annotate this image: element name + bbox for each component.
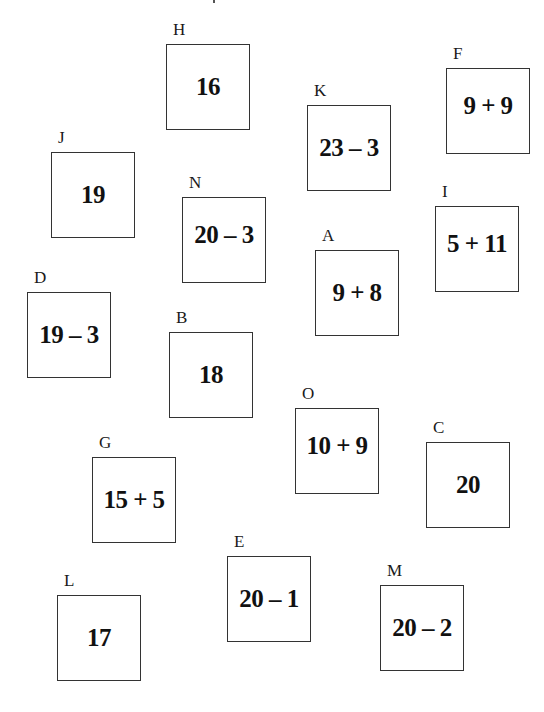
- card-box: 16: [166, 44, 250, 130]
- card-j[interactable]: J 19: [51, 152, 135, 238]
- card-label: K: [314, 81, 326, 101]
- card-label: F: [453, 44, 462, 64]
- card-label: N: [189, 173, 201, 193]
- card-box: 20 – 2: [380, 585, 464, 671]
- card-value: 9 + 9: [463, 92, 512, 120]
- card-c[interactable]: C 20: [426, 442, 510, 528]
- card-box: 15 + 5: [92, 457, 176, 543]
- card-value: 17: [87, 624, 111, 652]
- card-box: 23 – 3: [307, 105, 391, 191]
- card-value: 16: [196, 73, 220, 101]
- card-m[interactable]: M 20 – 2: [380, 585, 464, 671]
- card-value: 9 + 8: [332, 279, 381, 307]
- card-value: 10 + 9: [306, 432, 367, 460]
- card-value: 23 – 3: [319, 134, 379, 162]
- card-box: 5 + 11: [435, 206, 519, 292]
- card-l[interactable]: L 17: [57, 595, 141, 681]
- card-box: 20 – 3: [182, 197, 266, 283]
- card-box: 10 + 9: [295, 408, 379, 494]
- card-label: J: [58, 128, 65, 148]
- card-o[interactable]: O 10 + 9: [295, 408, 379, 494]
- card-label: L: [64, 571, 74, 591]
- card-a[interactable]: A 9 + 8: [315, 250, 399, 336]
- card-label: H: [173, 20, 185, 40]
- card-label: I: [442, 182, 448, 202]
- card-f[interactable]: F 9 + 9: [446, 68, 530, 154]
- card-value: 19: [81, 181, 105, 209]
- card-label: G: [99, 433, 111, 453]
- card-box: 17: [57, 595, 141, 681]
- card-value: 20: [456, 471, 480, 499]
- card-label: E: [234, 532, 244, 552]
- card-box: 19: [51, 152, 135, 238]
- card-n[interactable]: N 20 – 3: [182, 197, 266, 283]
- card-box: 9 + 9: [446, 68, 530, 154]
- card-value: 20 – 1: [239, 585, 299, 613]
- card-box: 20: [426, 442, 510, 528]
- card-e[interactable]: E 20 – 1: [227, 556, 311, 642]
- card-label: C: [433, 418, 444, 438]
- card-label: M: [387, 561, 402, 581]
- card-label: D: [34, 268, 46, 288]
- card-label: A: [322, 226, 334, 246]
- card-value: 5 + 11: [447, 230, 507, 258]
- card-b[interactable]: B 18: [169, 332, 253, 418]
- card-box: 9 + 8: [315, 250, 399, 336]
- card-value: 15 + 5: [103, 486, 164, 514]
- card-d[interactable]: D 19 – 3: [27, 292, 111, 378]
- card-value: 18: [199, 361, 223, 389]
- card-value: 20 – 2: [392, 614, 452, 642]
- card-box: 20 – 1: [227, 556, 311, 642]
- card-box: 19 – 3: [27, 292, 111, 378]
- card-label: O: [302, 384, 314, 404]
- card-k[interactable]: K 23 – 3: [307, 105, 391, 191]
- card-label: B: [176, 308, 187, 328]
- top-mark: [213, 0, 215, 3]
- card-i[interactable]: I 5 + 11: [435, 206, 519, 292]
- card-g[interactable]: G 15 + 5: [92, 457, 176, 543]
- card-value: 19 – 3: [39, 321, 99, 349]
- card-h[interactable]: H 16: [166, 44, 250, 130]
- card-box: 18: [169, 332, 253, 418]
- card-value: 20 – 3: [194, 221, 254, 249]
